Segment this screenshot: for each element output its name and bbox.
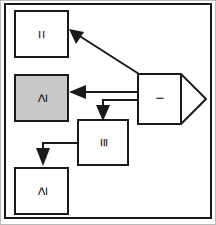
node-minus-source[interactable]: −: [137, 73, 207, 125]
node-geq-bottom[interactable]: ≥: [14, 167, 69, 215]
node-equals-top-label: =: [34, 30, 49, 39]
node-geq-bottom-label: ≥: [34, 187, 49, 195]
node-identical-label: ≡: [95, 138, 110, 147]
node-geq-middle[interactable]: ≥: [14, 74, 69, 122]
node-equals-top[interactable]: =: [14, 10, 69, 58]
pentagon-outline: [138, 74, 206, 124]
node-identical[interactable]: ≡: [77, 119, 129, 166]
node-minus-source-label: −: [151, 90, 169, 105]
diagram-canvas: = ≥ ≡ ≥ −: [0, 0, 216, 225]
node-geq-middle-label: ≥: [34, 94, 49, 102]
